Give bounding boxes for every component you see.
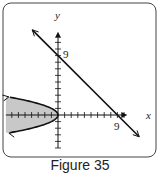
y-axis-arrow-icon — [55, 32, 61, 38]
graph-figure: y x 9 9 — [0, 0, 160, 178]
y-axis-label: y — [54, 9, 60, 21]
x-axis-label: x — [145, 109, 151, 121]
figure-caption: Figure 35 — [0, 157, 160, 173]
x-tick-label-9: 9 — [114, 120, 120, 132]
figure-frame — [3, 3, 156, 157]
y-tick-label-9: 9 — [63, 48, 69, 60]
